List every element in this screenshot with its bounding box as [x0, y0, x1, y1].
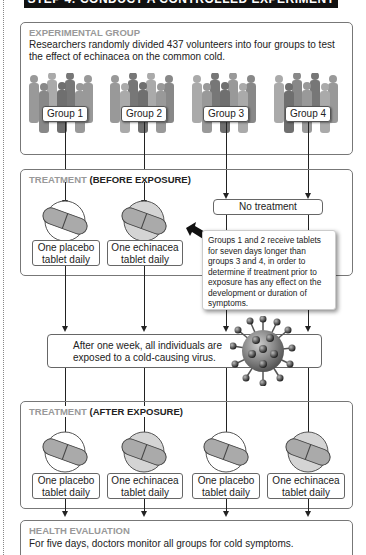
title-dark: (AFTER EXPOSURE) [90, 406, 183, 417]
title-dark: (BEFORE EXPOSURE) [90, 174, 191, 185]
flow-line-1b [65, 182, 66, 200]
title-light: TREATMENT [29, 406, 87, 417]
tablet-label-line2: tablet daily [33, 254, 99, 266]
crowd-group-1-icon [26, 73, 100, 135]
tablet-label-after-2: One echinacea tablet daily [107, 473, 183, 499]
tablet-label-line1: One placebo [33, 475, 99, 487]
exposure-line-1: After one week, all individuals are [73, 340, 222, 352]
tablet-label-before-2: One echinacea tablet daily [107, 240, 183, 266]
tablet-label-line2: tablet daily [108, 254, 182, 266]
no-treatment-box: No treatment [213, 199, 323, 215]
tablet-label-line2: tablet daily [108, 487, 182, 499]
arrow-down-icon [223, 326, 229, 332]
health-evaluation-text: For five days, doctors monitor all group… [29, 538, 294, 550]
treatment-after-title: TREATMENT (AFTER EXPOSURE) [29, 406, 183, 417]
description-line-1: Researchers randomly divided 437 volunte… [29, 39, 335, 51]
experimental-group-description: Researchers randomly divided 437 volunte… [29, 39, 335, 63]
tablet-label-line1: One placebo [193, 475, 259, 487]
title-light: TREATMENT [29, 174, 87, 185]
flow-line-4b [308, 170, 309, 193]
group-4-label: Group 4 [285, 106, 331, 122]
tablet-label-line2: tablet daily [193, 487, 259, 499]
exposure-text: After one week, all individuals are expo… [73, 340, 222, 364]
exposure-line-2: exposed to a cold-causing virus. [73, 352, 222, 364]
tablet-label-after-3: One placebo tablet daily [192, 473, 260, 499]
virus-icon [230, 316, 296, 386]
explanation-note: Groups 1 and 2 receive tablets for seven… [202, 230, 336, 310]
group-1-label: Group 1 [42, 106, 88, 122]
description-line-2: the effect of echinacea on the common co… [29, 51, 335, 63]
flow-line-3b [226, 170, 227, 193]
arrow-down-icon [305, 511, 311, 517]
echinacea-pill-icon [117, 199, 171, 243]
arrow-down-icon [62, 326, 68, 332]
tablet-label-after-4: One echinacea tablet daily [267, 473, 345, 499]
arrow-down-icon [62, 511, 68, 517]
group-3-label: Group 3 [203, 106, 249, 122]
experimental-group-title: EXPERIMENTAL GROUP [29, 27, 140, 38]
tablet-label-line1: One echinacea [108, 242, 182, 254]
flow-line-2e [144, 499, 145, 511]
page-header: STEP 4: CONDUCT A CONTROLLED EXPERIMENT [24, 0, 338, 8]
flow-line-3e [226, 499, 227, 511]
tablet-label-after-1: One placebo tablet daily [32, 473, 100, 499]
flow-line-2c [144, 266, 145, 326]
treatment-before-title: TREATMENT (BEFORE EXPOSURE) [29, 174, 191, 185]
tablet-label-line1: One echinacea [268, 475, 344, 487]
placebo-pill-icon [38, 199, 92, 243]
arrow-down-icon [223, 511, 229, 517]
arrow-down-icon [305, 326, 311, 332]
placebo-pill-icon [38, 430, 92, 474]
flow-line-2b [144, 182, 145, 200]
tablet-label-line1: One placebo [33, 242, 99, 254]
tablet-label-line2: tablet daily [33, 487, 99, 499]
echinacea-pill-icon [281, 430, 335, 474]
flow-line-1e [65, 499, 66, 511]
flow-line-4e [308, 499, 309, 511]
echinacea-pill-icon [117, 430, 171, 474]
group-2-label: Group 2 [121, 106, 167, 122]
tablet-label-before-1: One placebo tablet daily [32, 240, 100, 266]
arrow-down-icon [141, 511, 147, 517]
tablet-label-line2: tablet daily [268, 487, 344, 499]
flow-line-1c [65, 266, 66, 326]
placebo-pill-icon [199, 430, 253, 474]
health-evaluation-panel: HEALTH EVALUATION For five days, doctors… [20, 520, 353, 555]
page-edge-dotted-border [3, 0, 4, 555]
arrow-down-icon [141, 326, 147, 332]
tablet-label-line1: One echinacea [108, 475, 182, 487]
health-evaluation-title: HEALTH EVALUATION [29, 525, 130, 536]
